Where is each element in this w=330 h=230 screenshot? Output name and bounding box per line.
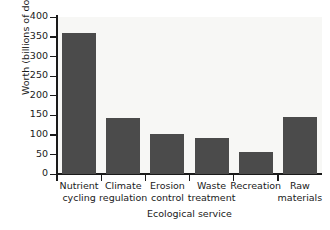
bar [195, 138, 229, 174]
y-axis-tick [50, 95, 57, 96]
y-axis-tick [50, 154, 57, 155]
y-axis-tick [50, 56, 57, 57]
y-axis-tick-label: 300 [18, 50, 48, 61]
y-axis-tick-label: 400 [18, 10, 48, 21]
y-axis-tick [50, 76, 57, 77]
y-axis-tick-label: 200 [18, 89, 48, 100]
x-axis-tick-label-line: Raw [272, 180, 328, 192]
x-axis-tick-label-line: treatment [184, 192, 240, 204]
bar-chart-figure: Worth (billions of dollars) 050100150200… [0, 0, 330, 230]
x-axis-title: Ecological service [57, 208, 322, 219]
bar [283, 117, 317, 174]
y-axis-tick-label: 350 [18, 30, 48, 41]
y-axis-tick-label: 250 [18, 69, 48, 80]
bar [62, 33, 96, 174]
x-axis-tick-label-line: materials [272, 192, 328, 204]
bar [239, 152, 273, 174]
y-axis-tick-label: 150 [18, 108, 48, 119]
y-axis-tick [50, 134, 57, 135]
y-axis-tick [50, 36, 57, 37]
bar [150, 134, 184, 174]
y-axis-tick-label: 50 [18, 148, 48, 159]
y-axis-tick [50, 115, 57, 116]
y-axis-tick [50, 17, 57, 18]
y-axis-tick-label: 0 [18, 167, 48, 178]
bar [106, 118, 140, 174]
y-axis-tick-label: 100 [18, 128, 48, 139]
x-axis-tick-label-group: Rawmaterials [272, 180, 328, 203]
